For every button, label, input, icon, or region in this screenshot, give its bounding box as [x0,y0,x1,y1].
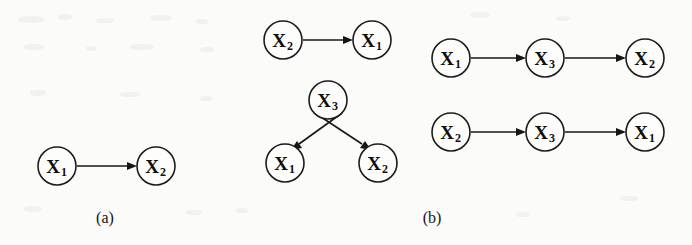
edge-x3-x1 [565,128,626,136]
node-x1[interactable]: X 1 [432,39,470,77]
node-label-x1: X [361,30,375,51]
graph-a-1: X 1 X 2 [38,147,175,185]
node-label-x3: X [534,122,548,143]
node-label-x1: X [46,156,60,177]
graph-b-4: X 2 X 3 X 1 [432,113,664,151]
node-x3[interactable]: X 3 [526,39,564,77]
node-sub-x2: 2 [287,39,293,53]
causal-graph-figure: X 1 X 2 (a) X 2 X 1 [0,0,692,245]
node-x3[interactable]: X 3 [526,113,564,151]
node-sub-x3: 3 [549,57,555,71]
node-label-x1: X [440,48,454,69]
graph-b-3: X 1 X 3 X 2 [432,39,664,77]
node-sub-x1: 1 [289,162,295,176]
node-label-x3: X [317,90,331,111]
node-sub-x2: 2 [160,165,166,179]
graph-canvas: X 1 X 2 (a) X 2 X 1 [0,0,692,245]
node-label-x2: X [440,122,454,143]
edge-x2-x3 [471,128,526,136]
node-sub-x3: 3 [332,99,338,113]
node-label-x2: X [272,30,286,51]
node-sub-x2: 2 [382,162,388,176]
node-sub-x1: 1 [455,57,461,71]
node-label-x1: X [634,122,648,143]
graph-b-1: X 2 X 1 [264,21,391,59]
node-sub-x1: 1 [649,131,655,145]
node-sub-x1: 1 [61,165,67,179]
node-x2[interactable]: X 2 [626,39,664,77]
node-x3[interactable]: X 3 [309,81,347,119]
node-label-x2: X [367,153,381,174]
node-label-x2: X [145,156,159,177]
node-x2[interactable]: X 2 [432,113,470,151]
node-label-x2: X [634,48,648,69]
node-x2[interactable]: X 2 [264,21,302,59]
node-sub-x3: 3 [549,131,555,145]
node-sub-x2: 2 [455,131,461,145]
node-label-x1: X [274,153,288,174]
node-label-x3: X [534,48,548,69]
panel-caption-a: (a) [96,209,114,227]
edge-x2-x1 [303,36,353,44]
node-x2[interactable]: X 2 [137,147,175,185]
edge-x1-x2 [77,162,137,170]
edge-x3-x2 [565,54,626,62]
node-x1[interactable]: X 1 [353,21,391,59]
node-sub-x1: 1 [376,39,382,53]
node-x2[interactable]: X 2 [359,144,397,182]
node-x1[interactable]: X 1 [626,113,664,151]
edge-x1-x3 [471,54,526,62]
panel-caption-b: (b) [423,209,442,227]
node-x1[interactable]: X 1 [38,147,76,185]
graph-b-2: X 3 X 1 X 2 [266,81,397,182]
node-sub-x2: 2 [649,57,655,71]
node-x1[interactable]: X 1 [266,144,304,182]
